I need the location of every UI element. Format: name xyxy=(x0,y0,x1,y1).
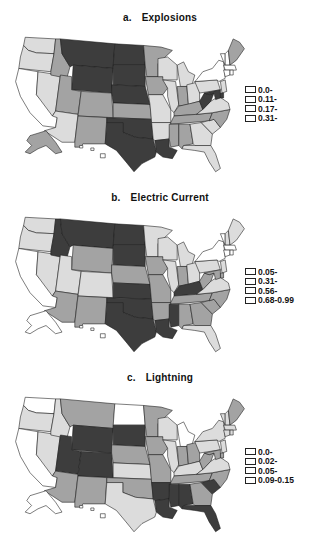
legend-swatch xyxy=(245,278,256,285)
legend: 0.0- 0.11- 0.17- 0.31- xyxy=(245,85,277,123)
state-in xyxy=(177,86,188,106)
state-ma xyxy=(224,245,237,250)
state-wi xyxy=(158,57,177,80)
state-co xyxy=(78,271,113,297)
state-ms xyxy=(169,124,179,147)
legend-item: 0.31- xyxy=(245,277,294,287)
state-co xyxy=(78,451,113,477)
state-de xyxy=(220,93,223,98)
state-me xyxy=(228,399,244,425)
us-map xyxy=(14,214,246,364)
us-map xyxy=(14,394,246,537)
state-ar xyxy=(152,483,171,501)
state-ri xyxy=(230,430,233,435)
state-ma xyxy=(224,425,237,430)
legend-item: 0.05- xyxy=(245,466,294,476)
state-ks xyxy=(113,463,151,479)
legend: 0.0- 0.02- 0.05- 0.09-0.15 xyxy=(245,447,294,485)
state-mi xyxy=(177,242,195,267)
legend-swatch xyxy=(245,297,256,304)
map-title: b.Electric Current xyxy=(0,192,320,203)
state-nd xyxy=(113,44,145,65)
legend-item: 0.56- xyxy=(245,286,294,296)
state-co xyxy=(78,91,113,117)
legend-swatch xyxy=(245,467,256,474)
legend-item: 0.02- xyxy=(245,457,294,467)
state-ar xyxy=(152,303,171,321)
state-mi xyxy=(177,62,195,87)
legend-item: 0.31- xyxy=(245,114,277,124)
state-mt xyxy=(60,219,114,249)
state-sd xyxy=(113,245,145,266)
state-sd xyxy=(113,425,145,446)
legend-swatch xyxy=(245,105,256,112)
state-ri xyxy=(230,250,233,255)
state-de xyxy=(220,273,223,278)
state-ms xyxy=(169,304,179,327)
state-nm xyxy=(75,296,107,327)
legend-swatch xyxy=(245,96,256,103)
legend: 0.05- 0.31- 0.56- 0.68-0.99 xyxy=(245,267,294,305)
legend-swatch xyxy=(245,268,256,275)
legend-item: 0.11- xyxy=(245,95,277,105)
legend-swatch xyxy=(245,458,256,465)
state-hi xyxy=(80,146,106,158)
map-title: a.Explosions xyxy=(0,12,320,23)
state-ms xyxy=(169,484,179,507)
state-wy xyxy=(72,65,114,93)
state-ri xyxy=(230,70,233,75)
map-title: c.Lightning xyxy=(0,372,320,383)
state-me xyxy=(228,39,244,65)
state-ne xyxy=(112,445,150,465)
state-nj xyxy=(220,440,226,453)
legend-swatch xyxy=(245,86,256,93)
state-mo xyxy=(148,455,170,483)
state-mi xyxy=(177,422,195,447)
state-nj xyxy=(220,260,226,273)
state-ks xyxy=(113,283,151,299)
legend-swatch xyxy=(245,448,256,455)
panel-lightning: c.Lightning 0.0- 0.02- 0.05- 0.09-0.15 xyxy=(0,372,320,537)
state-mo xyxy=(148,95,170,123)
state-wy xyxy=(72,245,114,273)
state-nd xyxy=(113,224,145,245)
legend-item: 0.0- xyxy=(245,447,294,457)
state-sd xyxy=(113,65,145,86)
state-ks xyxy=(113,103,151,119)
legend-item: 0.68-0.99 xyxy=(245,296,294,306)
state-hi xyxy=(80,326,106,338)
state-fl xyxy=(182,506,220,532)
state-in xyxy=(177,266,188,286)
state-fl xyxy=(182,146,220,172)
state-de xyxy=(220,453,223,458)
state-ny xyxy=(195,240,225,261)
state-ny xyxy=(195,60,225,81)
us-map xyxy=(14,34,246,184)
state-wi xyxy=(158,417,177,440)
state-in xyxy=(177,446,188,466)
state-wi xyxy=(158,237,177,260)
state-nm xyxy=(75,116,107,147)
state-nd xyxy=(113,404,145,425)
state-ny xyxy=(195,420,225,441)
legend-item: 0.17- xyxy=(245,104,277,114)
state-ne xyxy=(112,85,150,105)
state-mt xyxy=(60,399,114,429)
state-wy xyxy=(72,425,114,453)
state-mo xyxy=(148,275,170,303)
legend-item: 0.0- xyxy=(245,85,277,95)
panel-electric-current: b.Electric Current 0.05- 0.31- 0.56- 0.6… xyxy=(0,192,320,371)
state-ne xyxy=(112,265,150,285)
state-nj xyxy=(220,80,226,93)
panel-explosions: a.Explosions 0.0- 0.11- 0.17- 0.31- xyxy=(0,12,320,191)
state-me xyxy=(228,219,244,245)
state-fl xyxy=(182,326,220,352)
legend-item: 0.05- xyxy=(245,267,294,277)
state-nm xyxy=(75,476,107,507)
legend-item: 0.09-0.15 xyxy=(245,476,294,486)
state-hi xyxy=(80,506,106,518)
state-ar xyxy=(152,123,171,141)
legend-swatch xyxy=(245,287,256,294)
state-ma xyxy=(224,65,237,70)
state-mt xyxy=(60,39,114,69)
